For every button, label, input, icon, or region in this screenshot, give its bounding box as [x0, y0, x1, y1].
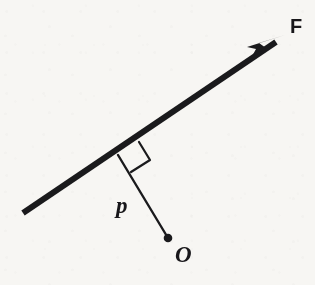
right-angle-marker [131, 142, 150, 172]
force-moment-diagram [0, 0, 315, 285]
pivot-label: O [175, 243, 192, 266]
pivot-point-dot [164, 234, 173, 243]
force-line-of-action [23, 42, 276, 213]
force-label: F [290, 16, 302, 36]
figure-canvas: F p O [0, 0, 315, 285]
moment-arm-label: p [116, 194, 128, 217]
